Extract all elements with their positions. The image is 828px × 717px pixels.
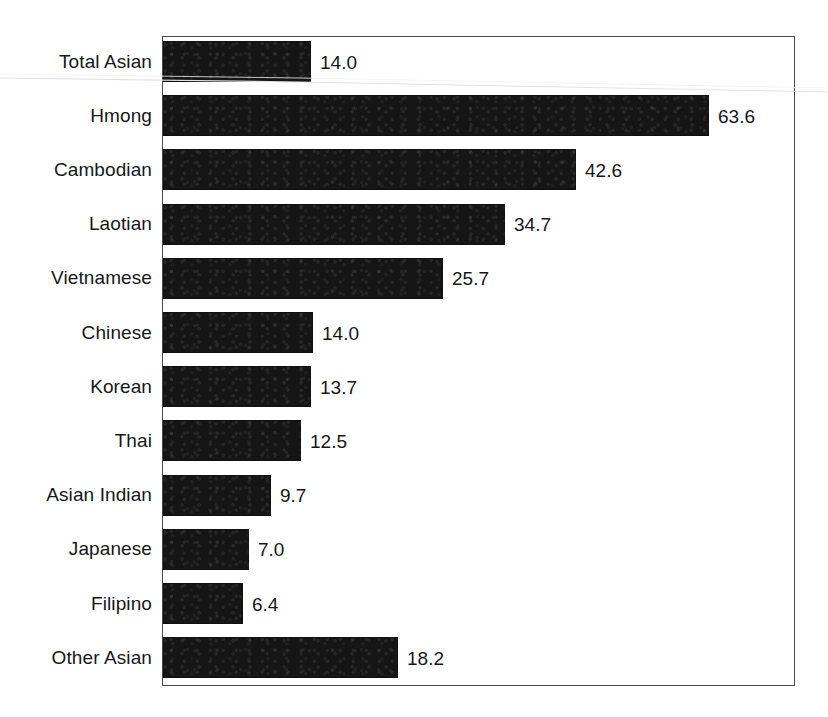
category-label: Japanese [0, 539, 152, 558]
bar [163, 637, 398, 678]
bar-row: 6.4 [163, 583, 794, 624]
bar-value-label: 14.0 [313, 323, 359, 342]
bar-chart: Total AsianHmongCambodianLaotianVietname… [0, 0, 828, 717]
category-labels-axis: Total AsianHmongCambodianLaotianVietname… [0, 37, 152, 686]
bar-value-label: 12.5 [301, 431, 347, 450]
bar [163, 95, 709, 136]
bar-value-label: 42.6 [576, 160, 622, 179]
bar [163, 204, 505, 245]
category-label: Korean [0, 377, 152, 396]
bar-row: 42.6 [163, 149, 794, 190]
bars-layer: 14.063.642.634.725.714.013.712.59.77.06.… [163, 37, 794, 685]
category-label: Chinese [0, 323, 152, 342]
bar [163, 529, 249, 570]
bar-row: 14.0 [163, 312, 794, 353]
bar-value-label: 6.4 [243, 594, 278, 613]
category-label: Thai [0, 431, 152, 450]
bar-row: 34.7 [163, 204, 794, 245]
bar-value-label: 25.7 [443, 269, 489, 288]
bar [163, 475, 271, 516]
bar [163, 149, 576, 190]
bar-row: 18.2 [163, 637, 794, 678]
category-label: Hmong [0, 106, 152, 125]
bar-value-label: 13.7 [311, 377, 357, 396]
category-label: Total Asian [0, 52, 152, 71]
bar-value-label: 63.6 [709, 106, 755, 125]
bar-value-label: 14.0 [311, 52, 357, 71]
bar [163, 583, 243, 624]
bar [163, 41, 311, 82]
bar [163, 366, 311, 407]
bar-row: 7.0 [163, 529, 794, 570]
bar-value-label: 18.2 [398, 648, 444, 667]
bar-value-label: 7.0 [249, 540, 284, 559]
bar-value-label: 34.7 [505, 215, 551, 234]
bar-row: 63.6 [163, 95, 794, 136]
category-label: Asian Indian [0, 485, 152, 504]
bar [163, 258, 443, 299]
category-label: Cambodian [0, 160, 152, 179]
bar [163, 312, 313, 353]
category-label: Filipino [0, 594, 152, 613]
bar-row: 25.7 [163, 258, 794, 299]
plot-area: 14.063.642.634.725.714.013.712.59.77.06.… [162, 36, 795, 686]
bar-value-label: 9.7 [271, 486, 306, 505]
category-label: Laotian [0, 214, 152, 233]
category-label: Other Asian [0, 648, 152, 667]
bar-row: 9.7 [163, 475, 794, 516]
bar-row: 14.0 [163, 41, 794, 82]
bar-row: 13.7 [163, 366, 794, 407]
bar [163, 420, 301, 461]
category-label: Vietnamese [0, 268, 152, 287]
bar-row: 12.5 [163, 420, 794, 461]
